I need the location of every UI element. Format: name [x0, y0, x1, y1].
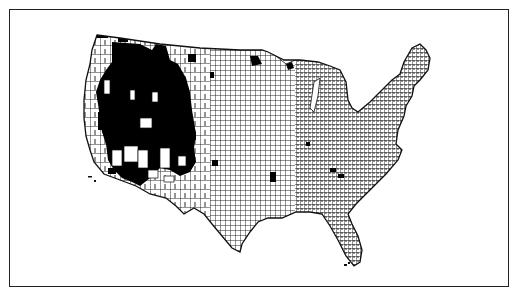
county-grid [80, 30, 435, 270]
us-county-map [0, 0, 518, 295]
